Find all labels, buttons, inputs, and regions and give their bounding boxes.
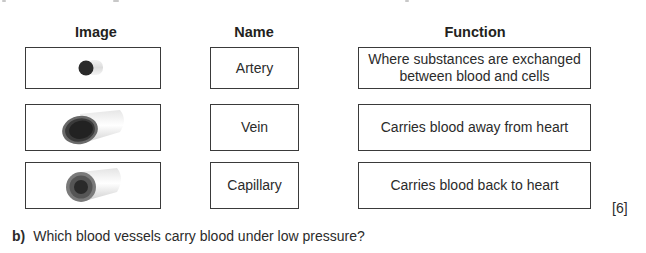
name-box-vein[interactable]: Vein: [210, 104, 299, 151]
question-label: b): [12, 228, 25, 244]
name-box-artery[interactable]: Artery: [210, 47, 299, 89]
name-box-capillary[interactable]: Capillary: [210, 162, 299, 209]
vessel-cross-section-thin-wall-icon: [58, 108, 128, 148]
vessel-cross-section-thick-wall-icon: [61, 166, 125, 206]
function-text-line1: Where substances are exchanged: [368, 51, 580, 68]
name-label: Vein: [241, 119, 268, 136]
question-b: b)Which blood vessels carry blood under …: [12, 228, 365, 244]
function-box-away-from-heart[interactable]: Carries blood away from heart: [358, 104, 591, 151]
function-text: Carries blood back to heart: [390, 177, 558, 194]
clipped-previous-line: [0, 0, 646, 4]
function-box-back-to-heart[interactable]: Carries blood back to heart: [358, 162, 591, 209]
function-text-line2: between blood and cells: [368, 68, 580, 85]
vessel-cross-section-small-icon: [73, 56, 113, 80]
name-label: Capillary: [227, 177, 281, 194]
header-name: Name: [215, 24, 293, 40]
marks-label: [6]: [612, 200, 628, 216]
name-label: Artery: [236, 60, 273, 77]
header-image: Image: [60, 24, 132, 40]
question-text: Which blood vessels carry blood under lo…: [33, 228, 365, 244]
function-text: Carries blood away from heart: [381, 119, 569, 136]
image-box-3[interactable]: [25, 162, 161, 209]
image-box-2[interactable]: [25, 104, 161, 151]
image-box-1[interactable]: [25, 47, 161, 89]
header-function: Function: [420, 24, 530, 40]
function-box-exchange[interactable]: Where substances are exchanged between b…: [358, 47, 591, 89]
